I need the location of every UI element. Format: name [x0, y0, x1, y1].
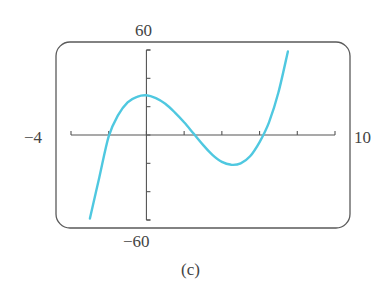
graph-window [0, 0, 391, 295]
axes [71, 50, 335, 220]
